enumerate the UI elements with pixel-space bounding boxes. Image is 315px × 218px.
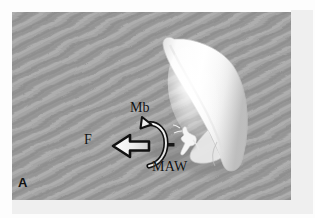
annotation-label-f: F — [84, 133, 92, 147]
panel-letter: A — [18, 176, 27, 189]
figure-mat-bottom — [12, 200, 313, 214]
figure-mat-right — [291, 10, 313, 202]
annotation-label-mb: Mb — [130, 101, 149, 115]
annotation-label-maw: MAW — [152, 160, 188, 174]
figure-root: Mb F MAW A — [0, 0, 315, 218]
